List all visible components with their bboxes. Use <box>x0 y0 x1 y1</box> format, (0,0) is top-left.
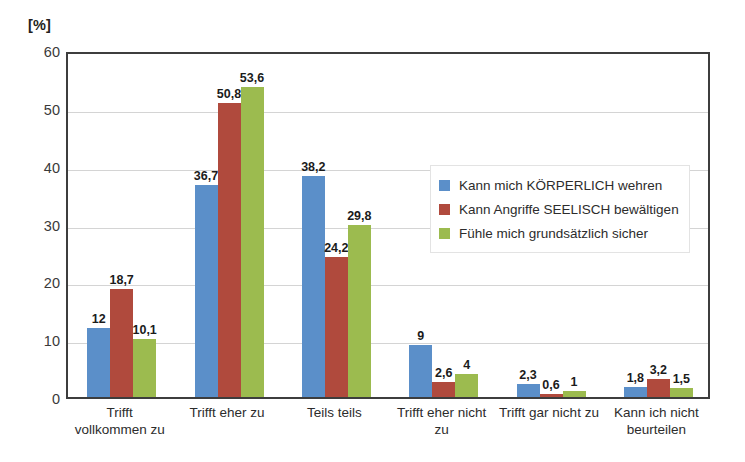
x-axis-category-label: Kann ich nichtbeurteilen <box>594 404 719 438</box>
legend-item-label: Kann Angriffe SEELISCH bewältigen <box>459 202 679 217</box>
bar[interactable] <box>670 388 693 397</box>
bar-value-label: 1,8 <box>627 371 644 385</box>
y-axis-tick-label: 50 <box>16 102 60 118</box>
bar-value-label: 1,5 <box>673 372 690 386</box>
bar-value-label: 53,6 <box>240 71 264 85</box>
legend-swatch-icon <box>439 204 450 215</box>
bar[interactable] <box>432 382 455 397</box>
bar-value-label: 0,6 <box>542 378 559 392</box>
y-axis-tick-label: 40 <box>16 160 60 176</box>
y-axis-tick-label: 20 <box>16 275 60 291</box>
bar[interactable] <box>325 257 348 397</box>
bar[interactable] <box>517 384 540 397</box>
legend-item[interactable]: Kann mich KÖRPERLICH wehren <box>439 173 679 197</box>
y-axis-unit-label: [%] <box>28 17 51 33</box>
bar[interactable] <box>348 225 371 397</box>
y-axis-tick-labels: 0102030405060 <box>8 52 60 399</box>
legend-item-label: Kann mich KÖRPERLICH wehren <box>459 178 662 193</box>
bar-value-label: 36,7 <box>194 169 218 183</box>
bar-value-label: 18,7 <box>109 273 133 287</box>
bar-value-label: 10,1 <box>132 323 156 337</box>
legend-item[interactable]: Fühle mich grundsätzlich sicher <box>439 221 679 245</box>
bar-value-label: 2,6 <box>435 366 452 380</box>
bar[interactable] <box>87 328 110 397</box>
legend-item-label: Fühle mich grundsätzlich sicher <box>459 226 648 241</box>
bar-value-label: 12 <box>92 312 106 326</box>
x-axis-category-label-line: zu <box>379 421 504 438</box>
bar[interactable] <box>455 374 478 397</box>
bar-value-label: 9 <box>417 329 424 343</box>
bar-value-label: 3,2 <box>650 363 667 377</box>
bar[interactable] <box>195 185 218 397</box>
y-axis-tick-label: 10 <box>16 333 60 349</box>
bar[interactable] <box>409 345 432 397</box>
bar[interactable] <box>563 391 586 397</box>
x-axis-category-label-line: Kann ich nicht <box>594 404 719 421</box>
bar[interactable] <box>133 339 156 397</box>
legend-item[interactable]: Kann Angriffe SEELISCH bewältigen <box>439 197 679 221</box>
bar[interactable] <box>110 289 133 397</box>
y-axis-tick-label: 60 <box>16 44 60 60</box>
x-axis-category-labels: Trifftvollkommen zuTrifft eher zuTeils t… <box>66 404 710 460</box>
legend-swatch-icon <box>439 180 450 191</box>
bar-value-label: 50,8 <box>217 87 241 101</box>
bar[interactable] <box>647 379 670 398</box>
bar-value-label: 24,2 <box>324 241 348 255</box>
bar[interactable] <box>218 103 241 397</box>
bar-value-label: 29,8 <box>347 209 371 223</box>
bar-value-label: 4 <box>463 358 470 372</box>
bar[interactable] <box>302 176 325 397</box>
x-axis-category-label-line: vollkommen zu <box>57 421 182 438</box>
bar-chart: [%] 0102030405060 1218,710,136,750,853,6… <box>0 0 745 462</box>
bar-value-label: 1 <box>571 375 578 389</box>
x-axis-category-label-line: beurteilen <box>594 421 719 438</box>
y-axis-tick-label: 0 <box>16 391 60 407</box>
bar-value-label: 2,3 <box>519 368 536 382</box>
y-axis-tick-label: 30 <box>16 218 60 234</box>
legend-swatch-icon <box>439 228 450 239</box>
bar-value-label: 38,2 <box>301 160 325 174</box>
bar[interactable] <box>540 394 563 397</box>
chart-legend: Kann mich KÖRPERLICH wehren Kann Angriff… <box>430 165 690 253</box>
bar[interactable] <box>241 87 264 397</box>
bar[interactable] <box>624 387 647 397</box>
